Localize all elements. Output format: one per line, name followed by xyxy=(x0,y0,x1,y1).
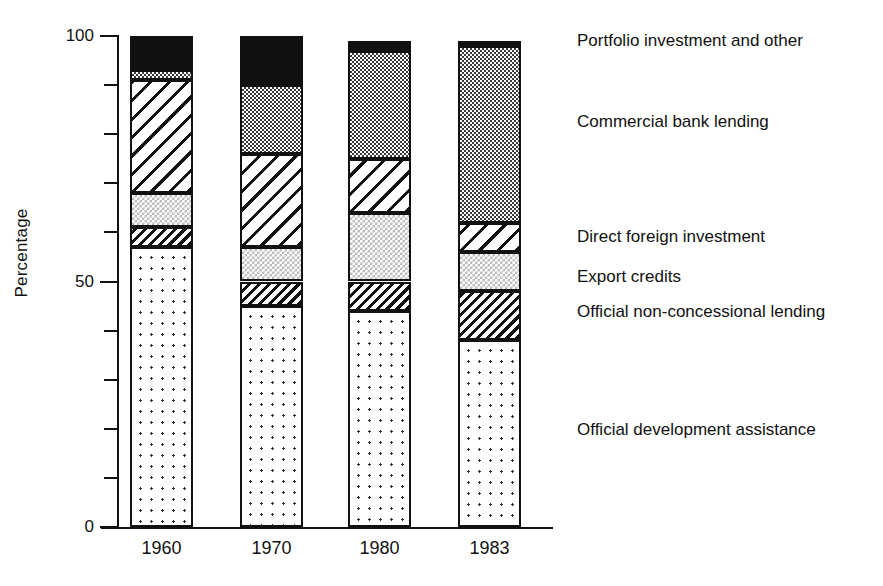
bar-segment-1980-portfolio-investment-and-other xyxy=(348,41,411,51)
bar-segment-1983-portfolio-investment-and-other xyxy=(458,41,521,46)
y-tick-10 xyxy=(104,477,118,479)
legend-label-dfi: Direct foreign investment xyxy=(577,228,765,245)
bar-segment-1980-commercial-bank-lending xyxy=(348,51,411,159)
y-axis-title: Percentage xyxy=(12,173,32,333)
legend-label-oda: Official development assistance xyxy=(577,421,816,438)
y-tick-50 xyxy=(100,281,118,283)
bar-segment-1983-oda xyxy=(458,340,521,527)
bar-segment-1980-direct-foreign-investment xyxy=(348,159,411,213)
x-tick-label-1980: 1980 xyxy=(340,538,420,559)
bar-segment-1970-oda xyxy=(240,306,303,527)
bar-segment-1970-direct-foreign-investment xyxy=(240,154,303,247)
bar-segment-1960-direct-foreign-investment xyxy=(130,80,193,193)
bar-segment-1960-commercial-bank-lending xyxy=(130,70,193,80)
y-tick-40 xyxy=(104,330,118,332)
x-tick-label-1983: 1983 xyxy=(450,538,530,559)
y-tick-100 xyxy=(100,35,118,37)
bar-1983 xyxy=(458,36,521,527)
x-axis-line xyxy=(101,527,553,529)
bar-segment-1983-export-credits xyxy=(458,252,521,291)
bar-segment-1980-official-non-concessional-lending xyxy=(348,282,411,311)
legend-label-commercial: Commercial bank lending xyxy=(577,113,769,130)
x-tick-label-1970: 1970 xyxy=(232,538,312,559)
legend-label-nonconc: Official non-concessional lending xyxy=(577,303,825,320)
bar-segment-1983-official-non-concessional-lending xyxy=(458,291,521,340)
bar-segment-1960-export-credits xyxy=(130,193,193,227)
y-tick-label-100: 100 xyxy=(48,27,94,44)
y-tick-label-50: 50 xyxy=(48,273,94,290)
x-tick-label-1960: 1960 xyxy=(122,538,202,559)
legend-label-export: Export credits xyxy=(577,268,681,285)
y-tick-30 xyxy=(104,379,118,381)
y-tick-60 xyxy=(104,231,118,233)
bar-segment-1960-oda xyxy=(130,247,193,527)
bar-segment-1980-oda xyxy=(348,311,411,527)
bar-segment-1960-official-non-concessional-lending xyxy=(130,227,193,247)
bar-segment-1970-commercial-bank-lending xyxy=(240,85,303,154)
bar-segment-1980-export-credits xyxy=(348,213,411,282)
bar-1960 xyxy=(130,36,193,527)
stacked-bar-chart: Percentage 050100 1960197019801983 Portf… xyxy=(0,0,883,586)
bar-segment-1970-official-non-concessional-lending xyxy=(240,282,303,307)
bar-1980 xyxy=(348,36,411,527)
bar-segment-1983-direct-foreign-investment xyxy=(458,223,521,252)
y-tick-80 xyxy=(104,133,118,135)
y-tick-70 xyxy=(104,182,118,184)
bar-1970 xyxy=(240,36,303,527)
bar-segment-1960-portfolio-investment-and-other xyxy=(130,36,193,70)
legend-label-portfolio: Portfolio investment and other xyxy=(577,32,803,49)
y-tick-label-0: 0 xyxy=(48,518,94,535)
y-tick-20 xyxy=(104,428,118,430)
bar-segment-1970-export-credits xyxy=(240,247,303,281)
bar-segment-1983-commercial-bank-lending xyxy=(458,46,521,223)
bar-segment-1970-portfolio-investment-and-other xyxy=(240,36,303,85)
y-tick-90 xyxy=(104,84,118,86)
